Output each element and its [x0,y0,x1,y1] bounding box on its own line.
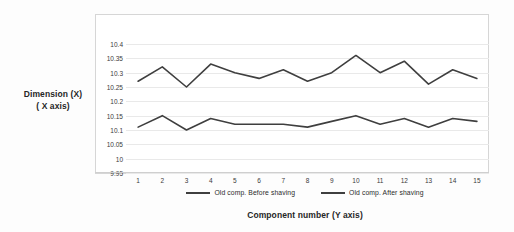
chart-legend: Old comp. Before shaving Old comp. After… [120,189,490,196]
legend-line-icon [186,192,210,194]
series-layer [0,0,514,232]
legend-line-icon [321,192,345,194]
legend-label: Old comp. Before shaving [214,189,295,196]
legend-item-before-shaving[interactable]: Old comp. Before shaving [186,189,295,196]
series-line-before-shaving [138,55,477,87]
series-line-after-shaving [138,116,477,130]
legend-label: Old comp. After shaving [349,189,423,196]
legend-item-after-shaving[interactable]: Old comp. After shaving [321,189,423,196]
chart-figure: Dimension (X) ( X axis) 10.410.3510.310.… [0,0,514,232]
x-axis-title: Component number (Y axis) [120,210,490,220]
